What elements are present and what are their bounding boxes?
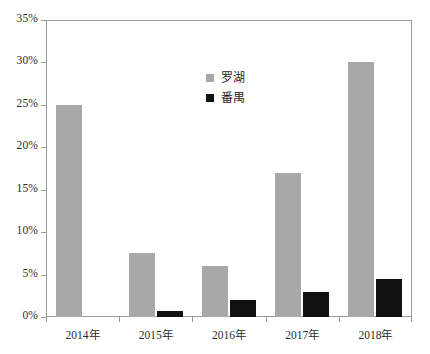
x-axis-tick-label: 2015年	[119, 326, 192, 342]
bar-group	[339, 20, 412, 317]
chart-legend: 罗湖番禺	[206, 70, 245, 105]
x-axis-tick-mark	[46, 317, 47, 322]
legend-label: 罗湖	[221, 72, 245, 84]
y-axis-tick-label: 30%	[17, 54, 38, 66]
x-axis-tick-mark	[411, 317, 412, 322]
bar-group	[266, 20, 339, 317]
x-axis: 2014年2015年2016年2017年2018年	[46, 317, 412, 354]
y-axis-tick-label: 20%	[17, 139, 38, 151]
x-axis-labels: 2014年2015年2016年2017年2018年	[46, 326, 412, 342]
legend-swatch-icon	[206, 74, 214, 82]
legend-label: 番禺	[221, 92, 245, 104]
bar-group	[192, 20, 265, 317]
x-axis-tick-label: 2017年	[266, 326, 339, 342]
bar-chart: 0%5%10%15%20%25%30%35% 罗湖番禺 2014年2015年20…	[0, 0, 430, 354]
bar	[230, 300, 256, 317]
y-axis-tick-label: 0%	[22, 309, 38, 321]
bars-layer	[46, 20, 412, 317]
x-axis-tick-label: 2018年	[339, 326, 412, 342]
x-axis-tick-mark	[339, 317, 340, 322]
bar	[56, 105, 82, 317]
y-axis: 0%5%10%15%20%25%30%35%	[0, 20, 46, 317]
y-axis-tick-label: 25%	[17, 97, 38, 109]
bar	[202, 266, 228, 317]
bar-group	[119, 20, 192, 317]
x-axis-tick-mark	[266, 317, 267, 322]
y-axis-tick-label: 10%	[17, 224, 38, 236]
y-axis-tick-label: 15%	[17, 182, 38, 194]
bar	[129, 253, 155, 317]
y-axis-tick-label: 35%	[17, 12, 38, 24]
x-axis-tick-label: 2016年	[192, 326, 265, 342]
bar	[275, 173, 301, 317]
bar-group	[46, 20, 119, 317]
bar	[376, 279, 402, 317]
bar	[348, 62, 374, 317]
bar	[303, 292, 329, 317]
legend-swatch-icon	[206, 94, 214, 102]
x-axis-tick-mark	[119, 317, 120, 322]
x-axis-tick-label: 2014年	[46, 326, 119, 342]
y-axis-tick-label: 5%	[22, 267, 38, 279]
legend-item: 罗湖	[206, 70, 245, 85]
x-axis-tick-mark	[192, 317, 193, 322]
legend-item: 番禺	[206, 90, 245, 105]
